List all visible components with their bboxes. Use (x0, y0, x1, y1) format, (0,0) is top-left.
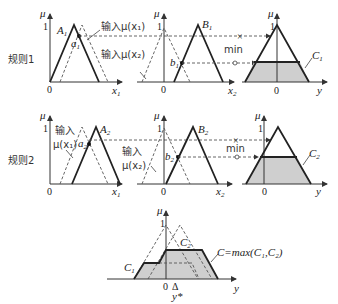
x1-axis-label: x1 (111, 84, 120, 98)
point-b1-label: b1 (170, 56, 179, 70)
point-a2 (87, 142, 91, 146)
centroid-label: y* (171, 290, 183, 302)
x2-axis-label: x2 (215, 185, 225, 199)
input-x2-annotation-line1: 输入 (122, 145, 142, 157)
point-b2-label: b2 (165, 150, 175, 164)
input-x2-annotation-line2: μ(x₂) (122, 160, 146, 171)
input-x1-annotation-line1: 输入 (55, 124, 75, 136)
point-a1-label: a1 (71, 37, 80, 51)
origin-label: 0 (161, 186, 166, 197)
rule-2-input-2-plot: μ 1 0 x2 B2 b2 输入 μ(x₂) (122, 109, 232, 199)
rule-1-output-plot: μ 1 0 y C1 (242, 7, 327, 96)
annotation-leader (87, 30, 100, 40)
mu-axis-label: μ (267, 7, 274, 19)
mu-axis-label: μ (254, 109, 261, 121)
tick-one: 1 (160, 218, 165, 229)
point-a2-label: a2 (78, 137, 88, 151)
clipped-C2-area (246, 157, 311, 184)
min-circle-marker (233, 61, 237, 65)
set-A2-label: A2 (99, 123, 111, 137)
tick-one: 1 (258, 123, 263, 134)
origin-label: 0 (274, 85, 279, 96)
fuzzy-inference-diagram: 规则1 μ 1 0 x1 A1 a1 输入μ(x₁) × μ 1 0 x (0, 0, 338, 304)
tick-one: 1 (157, 123, 162, 134)
aggregate-formula: C=max(C₁,C₂) (217, 246, 283, 259)
y-axis-label: y (316, 84, 322, 96)
tick-one: 1 (157, 21, 162, 32)
origin-label: 0 (163, 281, 168, 292)
min-operator: min (226, 143, 245, 154)
origin-label: 0 (47, 84, 52, 95)
label-leader (305, 58, 312, 68)
mu-axis-label: μ (156, 204, 163, 216)
set-C1-label: C1 (312, 49, 323, 63)
tick-one: 1 (43, 123, 48, 134)
set-B2-label: B2 (198, 123, 209, 137)
min-circle-marker (235, 155, 239, 159)
tick-one: 1 (43, 21, 48, 32)
rule-2: 规则2 μ 1 0 x1 A2 a2 输入 μ(x₁) × μ 1 0 (8, 109, 327, 199)
rule-1-label: 规则1 (8, 53, 34, 65)
set-A1-label: A1 (56, 24, 67, 38)
x2-axis-label: x2 (227, 84, 237, 98)
x1-axis-label: x1 (111, 185, 120, 199)
input-x2-annotation: 输入μ(x₂) (101, 48, 145, 60)
rule-2-input-1-plot: μ 1 0 x1 A2 a2 输入 μ(x₁) (39, 109, 122, 199)
set-B1-label: B1 (202, 18, 212, 32)
set-A2-triangle (72, 127, 120, 184)
aggregate-output-plot: μ 1 0 Δ y* y C1 C2 C=max(C₁,C₂) (107, 204, 283, 302)
origin-label: 0 (262, 186, 267, 197)
y-axis-label: y (315, 185, 321, 197)
rule-2-label: 规则2 (8, 154, 34, 166)
input-x1-annotation: 输入μ(x₁) (101, 20, 145, 32)
input-x1-annotation-line2: μ(x₁) (53, 139, 77, 150)
rule-1: 规则1 μ 1 0 x1 A1 a1 输入μ(x₁) × μ 1 0 x (8, 7, 327, 98)
mu-axis-label: μ (153, 7, 160, 19)
min-cross-marker: × (237, 31, 243, 42)
origin-label: 0 (47, 186, 52, 197)
set-B1-triangle (174, 25, 223, 82)
origin-label: 0 (161, 84, 166, 95)
C1-label: C1 (124, 261, 135, 275)
min-operator: min (224, 44, 243, 55)
annotation-leader (151, 166, 156, 172)
C2-label: C2 (180, 236, 191, 250)
mu-axis-label: μ (39, 7, 46, 19)
mu-axis-label: μ (39, 109, 46, 121)
rule-2-output-plot: μ 1 0 y C2 (242, 109, 327, 197)
set-C2-label: C2 (309, 147, 320, 161)
y-axis-label: y (233, 282, 239, 294)
mu-axis-label: μ (153, 109, 160, 121)
